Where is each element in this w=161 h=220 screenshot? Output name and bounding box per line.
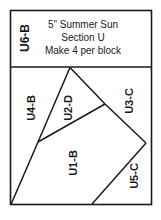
pattern-sheet: U6-B 5" Summer Sun Section U Make 4 per …: [0, 0, 161, 220]
piece-label-u2: U2-D: [62, 95, 74, 121]
pattern-title: 5" Summer Sun: [13, 19, 153, 31]
piece-label-u5: U5-C: [128, 163, 140, 189]
piece-label-u3: U3-C: [123, 88, 135, 114]
piece-label-u4: U4-B: [25, 95, 37, 121]
pattern-section: Section U: [13, 32, 153, 44]
piece-label-u1: U1-B: [67, 150, 79, 176]
pattern-instruction: Make 4 per block: [13, 45, 153, 57]
